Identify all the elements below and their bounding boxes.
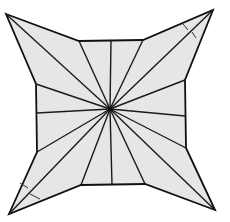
spoke-line	[110, 41, 111, 109]
center-point	[108, 107, 112, 111]
star-polygon-diagram	[0, 0, 230, 222]
diagram-canvas	[0, 0, 230, 222]
